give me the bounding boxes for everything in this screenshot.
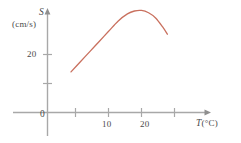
x-axis-tick-label-10: 10: [102, 120, 111, 129]
data-curve-s-vs-t: [71, 10, 167, 72]
x-axis-arrow-icon: [205, 110, 212, 116]
x-axis-tick-label-20: 20: [140, 120, 149, 129]
x-axis-label: T(°C): [196, 119, 218, 129]
origin-label: 0: [40, 110, 45, 120]
y-axis-symbol-label: S: [39, 8, 44, 18]
y-axis-arrow-icon: [45, 8, 51, 15]
y-axis-unit-label: (cm/s): [12, 20, 36, 29]
y-axis-tick-label-20: 20: [27, 50, 36, 59]
chart-screenshot: S (cm/s) 20 0 10 20 T(°C): [0, 0, 241, 143]
x-axis-unit-label: (°C): [201, 118, 217, 128]
